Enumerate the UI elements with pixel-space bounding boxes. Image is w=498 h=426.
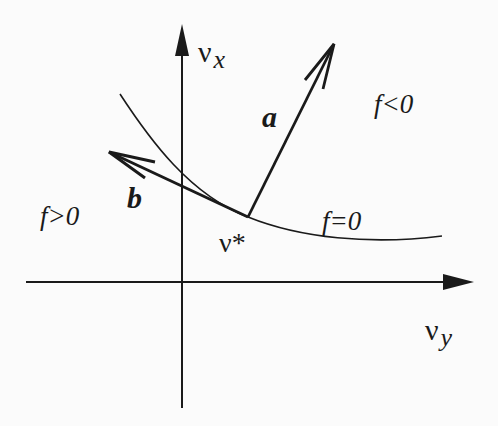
- boundary-label: f=0: [322, 206, 362, 236]
- vector-b-label: b: [127, 181, 142, 214]
- horizontal-axis-label: νy: [425, 313, 453, 352]
- arrowhead-a-icon: [305, 44, 334, 89]
- constraint-diagram: νx νy a b ν* f<0 f>0 f=0: [0, 0, 498, 426]
- point-label: ν*: [219, 227, 246, 258]
- vertical-axis: [175, 24, 189, 408]
- vector-a: [248, 44, 334, 217]
- region-negative-label: f<0: [374, 89, 414, 119]
- arrow-right-icon: [443, 274, 474, 290]
- arrowhead-b-icon: [109, 152, 155, 178]
- arrow-up-icon: [175, 24, 189, 56]
- vertical-axis-label: νx: [198, 35, 226, 74]
- horizontal-axis: [26, 274, 474, 290]
- region-positive-label: f>0: [40, 201, 80, 231]
- vector-a-label: a: [262, 100, 277, 133]
